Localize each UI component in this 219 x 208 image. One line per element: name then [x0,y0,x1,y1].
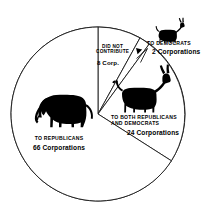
label-democrats: TO DEMOCRATS 2 Corporations [147,41,200,56]
pie-chart-graphic [0,0,219,208]
label-democrats-value: 2 Corporations [152,48,200,55]
label-republicans-value: 66 Corporations [33,144,85,151]
label-republicans-line1: TO REPUBLICANS [33,136,85,142]
label-democrats-line1: TO DEMOCRATS [147,41,200,47]
label-both-value: 24 Corporations [127,129,179,136]
label-republicans: TO REPUBLICANS 66 Corporations [33,136,85,152]
label-both: TO BOTH REPUBLICANS AND DEMOCRATS 24 Cor… [111,115,179,136]
label-did-not-contribute-value: 8 Corp. [97,60,129,67]
label-both-line2: AND DEMOCRATS [111,121,179,127]
label-did-not-contribute-line2: CONTRIBUTE [96,49,129,54]
label-did-not-contribute: DID NOT CONTRIBUTE 8 Corp. [96,44,129,67]
pie-chart: DID NOT CONTRIBUTE 8 Corp. TO DEMOCRATS … [0,0,219,208]
